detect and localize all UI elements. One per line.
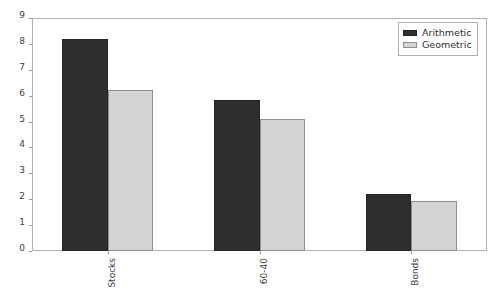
legend-label-geometric: Geometric [422, 40, 472, 50]
x-axis-tick-label: Bonds [411, 226, 420, 256]
x-axis-tick-label: 60-40 [260, 228, 269, 256]
chart-legend: ArithmeticGeometric [398, 22, 478, 56]
y-axis-tick-label: 3 [19, 166, 25, 175]
y-axis-tick-mark [29, 122, 32, 123]
legend-label-arithmetic: Arithmetic [422, 28, 471, 38]
y-axis-tick-mark [29, 225, 32, 226]
y-axis-tick-label: 8 [19, 37, 25, 46]
bar-bonds-arithmetic [366, 194, 412, 251]
y-axis-tick-label: 4 [19, 140, 25, 149]
y-axis-tick-label: 1 [19, 218, 25, 227]
y-axis-tick-mark [29, 44, 32, 45]
y-axis-tick-label: 0 [19, 244, 25, 253]
y-axis-tick-label: 6 [19, 89, 25, 98]
y-axis-tick-mark [29, 70, 32, 71]
y-axis-tick-label: 5 [19, 115, 25, 124]
x-axis-tick-label: Stocks [108, 224, 117, 256]
x-axis-tick-label-text: Bonds [411, 256, 420, 286]
y-axis-tick-label: 7 [19, 63, 25, 72]
legend-swatch-geometric [403, 42, 417, 48]
bar-chart-figure: 0123456789 Stocks60-40Bonds ArithmeticGe… [0, 0, 499, 295]
legend-item-geometric: Geometric [403, 39, 472, 51]
y-axis-tick-label: 9 [19, 11, 25, 20]
legend-item-arithmetic: Arithmetic [403, 27, 472, 39]
x-axis-tick-label-text: Stocks [108, 256, 117, 288]
y-axis-tick-mark [29, 18, 32, 19]
y-axis-tick-mark [29, 199, 32, 200]
y-axis-tick-label: 2 [19, 192, 25, 201]
y-axis-tick-mark [29, 251, 32, 252]
bar-60-40-arithmetic [214, 100, 260, 251]
y-axis-tick-mark [29, 147, 32, 148]
x-axis-tick-label-text: 60-40 [260, 256, 269, 284]
legend-swatch-arithmetic [403, 30, 417, 36]
bar-stocks-arithmetic [62, 39, 108, 251]
y-axis-tick-mark [29, 173, 32, 174]
y-axis-tick-mark [29, 96, 32, 97]
